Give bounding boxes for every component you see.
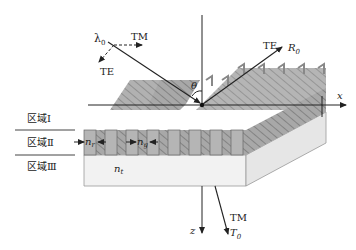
reflected-te-label: TE [263, 40, 277, 51]
incident-tm-label: TM [131, 31, 148, 42]
reflected-r0-label: R0 [287, 42, 301, 56]
region-3-label: 区域Ⅲ [27, 160, 57, 172]
te-polarization-arrow [99, 45, 114, 62]
incident-te-label: TE [100, 66, 114, 77]
z-axis-label: z [189, 225, 196, 236]
angle-arc [192, 91, 202, 96]
transmitted-beam [215, 186, 228, 234]
region-1-label: 区域Ⅰ [27, 112, 51, 124]
angle-label: θ [191, 80, 197, 91]
transmitted-tm-label: TM [230, 212, 247, 223]
wavelength-label: λ0 [94, 32, 105, 47]
region-2-label: 区域Ⅱ [27, 136, 54, 148]
grating-diagram: x z λ0 TM TE θ TE R0 TM T0 区域Ⅰ 区域Ⅱ 区域Ⅲ n… [0, 0, 356, 250]
transmitted-t0-label: T0 [230, 227, 242, 241]
x-axis-label: x [337, 90, 343, 101]
